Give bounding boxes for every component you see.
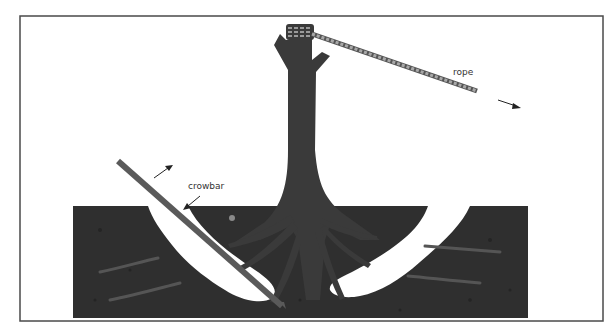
rope-wrap: [286, 24, 314, 40]
stump-removal-diagram: rope crowbar: [0, 0, 609, 334]
crowbar-label: crowbar: [188, 181, 225, 191]
rope-label: rope: [453, 67, 474, 77]
